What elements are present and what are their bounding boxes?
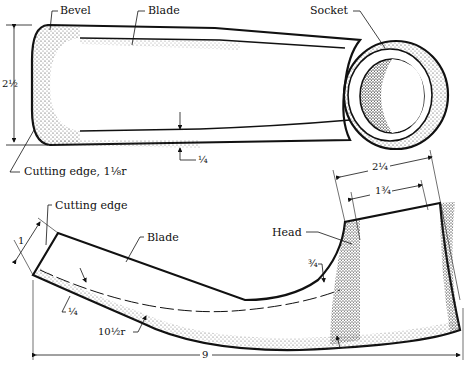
dim-edge-width: 1 <box>18 236 24 246</box>
dim-curve-radius: 10½r <box>98 327 125 337</box>
dim-head-inner: 1¾ <box>375 186 391 196</box>
label-blade-side: Blade <box>147 232 179 243</box>
label-socket: Socket <box>310 5 348 16</box>
label-blade-top: Blade <box>148 5 180 16</box>
label-cutting-edge-radius: Cutting edge, 1⅛r <box>24 166 127 177</box>
dim-blade-thickness: ¼ <box>68 307 78 317</box>
side-view <box>14 150 463 360</box>
top-view <box>6 11 448 172</box>
dim-head-outer: 2¼ <box>372 162 388 172</box>
label-head: Head <box>272 227 302 238</box>
dim-thickness-top: ¼ <box>198 155 208 165</box>
dim-neck: ¾ <box>308 259 318 269</box>
label-bevel: Bevel <box>60 5 91 16</box>
label-cutting-edge: Cutting edge <box>55 200 128 211</box>
dim-overall-length: 9 <box>202 350 208 360</box>
dim-width: 2½ <box>2 79 18 89</box>
